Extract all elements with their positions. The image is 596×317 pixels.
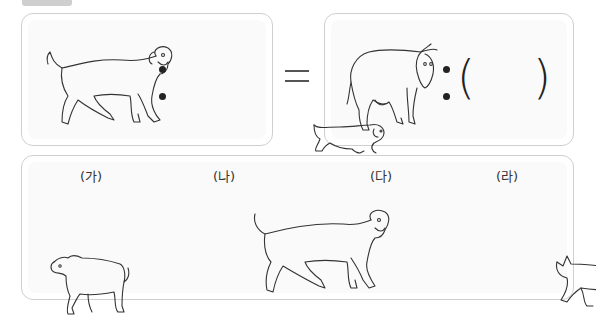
- answer-blank[interactable]: [485, 64, 530, 104]
- choice-label-na: (나): [213, 166, 235, 185]
- open-paren: (: [457, 54, 475, 100]
- choice-label-da: (다): [370, 166, 392, 185]
- ratio-colon: [159, 66, 167, 120]
- choice-label-ga: (가): [80, 166, 102, 185]
- adult-dog-choice-icon[interactable]: [251, 208, 391, 296]
- cat-icon[interactable]: [553, 250, 596, 312]
- analogy-left-box: [21, 13, 273, 146]
- ratio-colon: [443, 66, 451, 120]
- calf-icon[interactable]: [48, 252, 134, 317]
- choice-label-ra: (라): [496, 166, 518, 185]
- cow-icon: [345, 42, 441, 134]
- choices-box: (가) (나) (다) (라): [21, 155, 574, 300]
- adult-dog-icon: [44, 44, 174, 134]
- equals-sign: [285, 70, 309, 82]
- problem-tab: [22, 0, 72, 6]
- analogy-right-box: ( ): [324, 13, 574, 146]
- close-paren: ): [533, 54, 551, 100]
